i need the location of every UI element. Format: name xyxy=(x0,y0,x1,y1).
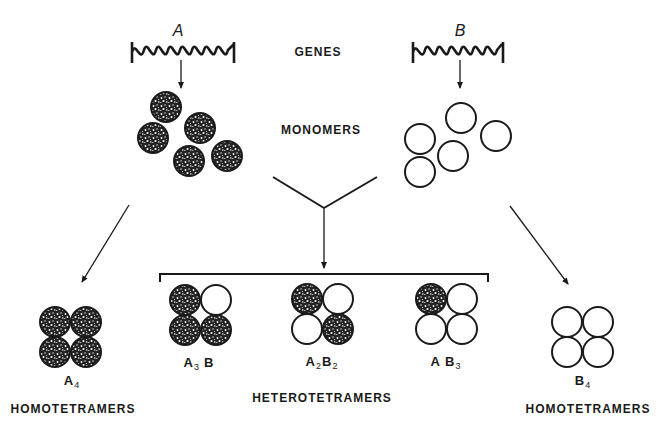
b-monomer xyxy=(438,141,468,171)
homotetramers-left-label: HOMOTETRAMERS xyxy=(11,402,136,416)
b4-label: B4 xyxy=(575,373,591,390)
tetramer-ab3 xyxy=(416,284,477,344)
isozyme-diagram: A B GENES MONOMERS A4 xyxy=(0,0,672,426)
gene-b: B xyxy=(413,22,503,88)
tetramer-a4 xyxy=(40,307,101,367)
a-monomer xyxy=(174,146,204,176)
tetramer-a2b2 xyxy=(292,284,353,344)
ab3-label: AB3 xyxy=(431,354,462,371)
a-monomer xyxy=(185,113,215,143)
a2b2-label: A2B2 xyxy=(306,354,339,371)
homotetramers-right-label: HOMOTETRAMERS xyxy=(526,402,651,416)
tetramer-b4 xyxy=(552,307,613,367)
b-monomers xyxy=(405,103,511,187)
gene-b-wave-icon xyxy=(413,42,503,63)
gene-a-wave-icon xyxy=(132,42,234,63)
a4-label: A4 xyxy=(64,373,80,390)
heterotetramers-label: HETEROTETRAMERS xyxy=(252,391,392,405)
genes-label: GENES xyxy=(294,45,341,59)
arrow-to-a4 xyxy=(82,205,129,282)
a-monomer xyxy=(212,141,242,171)
a3b-label: A3B xyxy=(184,355,215,372)
gene-b-letter: B xyxy=(455,22,466,39)
tetramer-a3b xyxy=(170,285,231,345)
b-monomer xyxy=(481,121,511,151)
a-monomer xyxy=(151,92,181,122)
b-monomer xyxy=(446,103,476,133)
arrow-to-b4 xyxy=(510,206,568,284)
monomers-label: MONOMERS xyxy=(281,123,361,137)
combination-junction xyxy=(160,177,488,282)
gene-a-letter: A xyxy=(172,22,184,39)
gene-a: A xyxy=(132,22,234,88)
b-monomer xyxy=(405,124,435,154)
a-monomer xyxy=(138,123,168,153)
b-monomer xyxy=(405,157,435,187)
a-monomers xyxy=(138,92,242,176)
